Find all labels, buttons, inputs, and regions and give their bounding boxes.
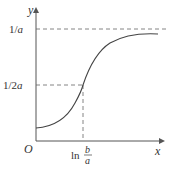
svg-text:b: b	[85, 144, 90, 155]
y-tick-asymptote: 1/a	[9, 23, 24, 35]
logistic-chart: y x O 1/a 1/2a ln b a	[0, 0, 175, 171]
y-axis-label: y	[27, 3, 34, 17]
svg-text:ln: ln	[71, 149, 80, 161]
y-tick-half: 1/2a	[3, 79, 23, 91]
x-axis-label: x	[154, 144, 161, 158]
origin-label: O	[24, 142, 33, 156]
x-tick-inflection: ln b a	[71, 144, 92, 166]
logistic-curve	[36, 34, 158, 128]
svg-text:a: a	[85, 155, 90, 166]
